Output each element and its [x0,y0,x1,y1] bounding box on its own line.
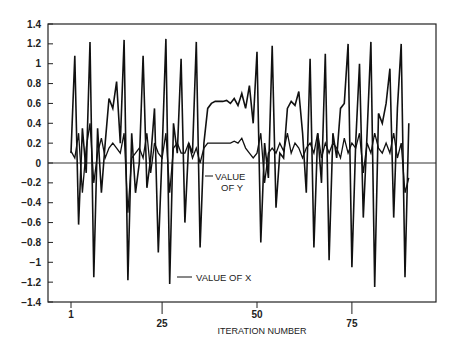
x-tick-label: 50 [251,309,263,320]
y-tick-label: 0.2 [27,138,41,149]
x-axis: 1255075 [68,302,358,329]
y-tick-label: 0.4 [27,118,41,129]
y-tick-label: 0.8 [27,78,41,89]
y-tick-label: −1 [30,257,42,268]
y-tick-label: 1.2 [27,38,41,49]
y-tick-label: 1.4 [27,19,41,30]
annotation-x: VALUE OF X [177,272,252,283]
plot-area [48,24,436,302]
x-tick-label: 1 [68,309,74,320]
annotation-x-label: VALUE OF X [196,272,252,283]
annotation-y: VALUE OF Y [205,171,245,193]
y-tick-label: 0.6 [27,98,41,109]
y-tick-label: −1.4 [21,297,41,308]
y-tick-label: −0.4 [21,197,41,208]
x-axis-title: ITERATION NUMBER [218,326,307,336]
series-value-of-y [71,123,409,212]
line-chart: 1.41.210.80.60.40.20−0.2−0.4−0.6−0.8−1−1… [0,0,458,350]
y-tick-label: −0.8 [21,237,41,248]
y-tick-label: −1.2 [21,277,41,288]
y-tick-label: 1 [35,58,41,69]
y-tick-label: −0.6 [21,217,41,228]
annotation-y-line2: OF Y [221,182,244,193]
x-tick-label: 75 [346,318,358,329]
y-tick-label: −0.2 [21,177,41,188]
x-tick-label: 25 [157,318,169,329]
annotation-y-line1: VALUE [215,171,245,182]
y-tick-label: 0 [35,158,41,169]
